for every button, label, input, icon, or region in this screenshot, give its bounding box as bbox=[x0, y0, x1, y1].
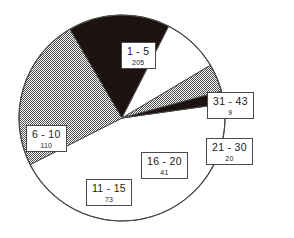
slice-callout-value: 205 bbox=[127, 59, 150, 66]
slice-callout-21-30[interactable]: 21 - 30 20 bbox=[206, 138, 253, 165]
slice-callout-label: 1 - 5 bbox=[127, 46, 150, 57]
slice-callout-value: 20 bbox=[212, 155, 247, 162]
slice-callout-16-20[interactable]: 16 - 20 41 bbox=[141, 152, 188, 179]
slice-callout-1-5[interactable]: 1 - 5 205 bbox=[121, 42, 156, 69]
slice-callout-value: 73 bbox=[92, 196, 126, 203]
slice-callout-label: 16 - 20 bbox=[147, 156, 182, 167]
slice-callout-label: 31 - 43 bbox=[213, 96, 248, 107]
slice-callout-label: 6 - 10 bbox=[32, 129, 61, 140]
slice-callout-label: 21 - 30 bbox=[212, 142, 247, 153]
slice-callout-6-10[interactable]: 6 - 10 110 bbox=[26, 125, 67, 152]
slice-callout-value: 110 bbox=[32, 142, 61, 149]
pie-chart-canvas bbox=[0, 0, 294, 238]
pie-chart: 1 - 5 205 6 - 10 110 11 - 15 73 16 - 20 … bbox=[0, 0, 294, 238]
slice-callout-value: 9 bbox=[213, 109, 248, 116]
slice-callout-value: 41 bbox=[147, 169, 182, 176]
slice-callout-11-15[interactable]: 11 - 15 73 bbox=[86, 179, 132, 206]
slice-callout-label: 11 - 15 bbox=[92, 183, 126, 194]
slice-callout-31-43[interactable]: 31 - 43 9 bbox=[207, 92, 254, 119]
